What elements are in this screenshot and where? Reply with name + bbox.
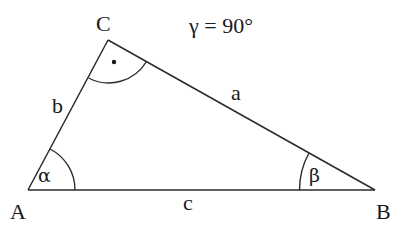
right-angle-arc-gamma [89, 62, 147, 83]
side-label-a: a [231, 80, 241, 105]
vertex-label-a: A [10, 199, 26, 224]
side-label-c: c [183, 190, 193, 215]
angle-label-beta: β [309, 164, 320, 186]
angle-label-alpha: α [38, 164, 51, 186]
gamma-annotation: γ = 90° [188, 13, 253, 38]
triangle-canvas: C A B a b c α β γ = 90° [0, 0, 405, 230]
triangle-diagram: C A B a b c α β γ = 90° [0, 0, 405, 230]
side-a [108, 40, 375, 190]
angle-arc-alpha [50, 149, 75, 190]
right-angle-dot [112, 60, 116, 64]
vertex-label-b: B [376, 199, 391, 224]
angle-arc-beta [299, 153, 309, 190]
side-label-b: b [52, 93, 63, 118]
vertex-label-c: C [96, 11, 111, 36]
